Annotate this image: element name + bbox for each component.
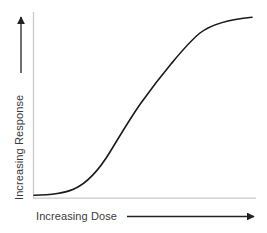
dose-response-chart: Increasing Response Increasing Dose <box>0 0 267 233</box>
dose-response-figure: Increasing Response Increasing Dose <box>0 0 267 233</box>
dose-response-curve <box>34 17 252 195</box>
y-axis-label: Increasing Response <box>13 95 25 200</box>
x-axis-label: Increasing Dose <box>36 210 117 222</box>
